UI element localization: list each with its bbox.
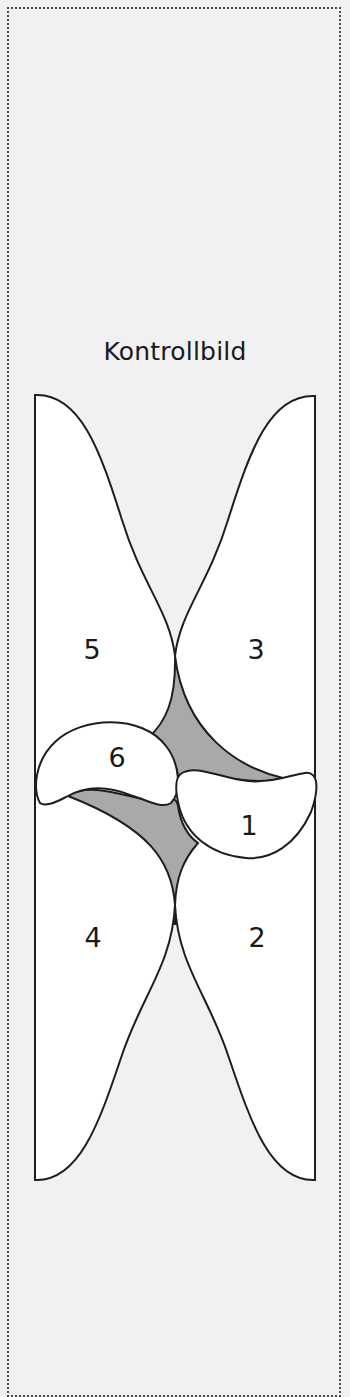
piece-label-3: 3 [247,634,264,665]
piece-label-1: 1 [240,810,257,841]
piece-label-5: 5 [83,634,100,665]
piece-label-6: 6 [108,742,125,773]
piece-label-4: 4 [84,922,101,953]
piece-label-2: 2 [248,922,265,953]
